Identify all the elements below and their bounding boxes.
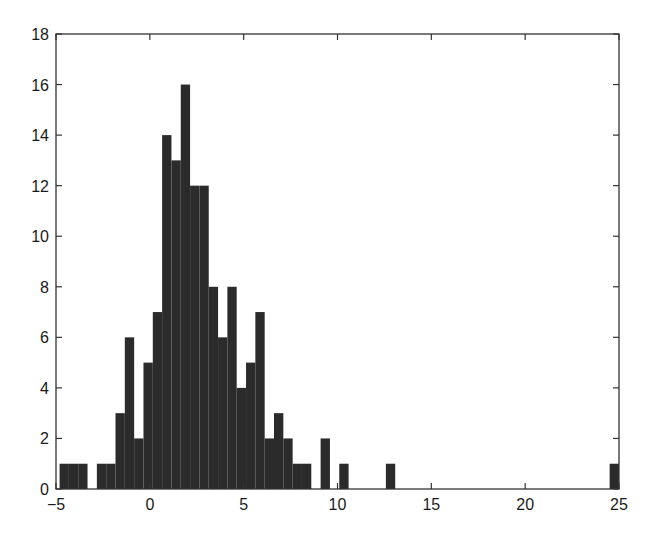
histogram-chart: −50510152025 024681012141618 [0, 0, 649, 539]
y-tick-label: 18 [31, 26, 49, 43]
histogram-bar [386, 464, 395, 489]
histogram-bar [162, 135, 171, 489]
histogram-bars [60, 85, 619, 489]
histogram-bar [321, 438, 330, 489]
histogram-bar [246, 363, 255, 489]
y-tick-label: 10 [31, 228, 49, 245]
histogram-bar [97, 464, 106, 489]
histogram-bar [218, 337, 227, 489]
histogram-bar [181, 85, 190, 489]
histogram-bar [610, 464, 619, 489]
histogram-bar [255, 312, 264, 489]
x-tick-label: 0 [145, 496, 154, 513]
histogram-bar [143, 363, 152, 489]
y-tick-label: 12 [31, 178, 49, 195]
x-tick-label: 25 [610, 496, 628, 513]
histogram-bar [339, 464, 348, 489]
y-tick-label: 0 [40, 481, 49, 498]
histogram-bar [116, 413, 125, 489]
histogram-bar [265, 438, 274, 489]
histogram-bar [171, 160, 180, 489]
histogram-bar [209, 287, 218, 489]
axes-frame [56, 34, 619, 489]
x-tick-label: 20 [516, 496, 534, 513]
histogram-bar [153, 312, 162, 489]
histogram-bar [190, 186, 199, 489]
y-tick-label: 6 [40, 329, 49, 346]
histogram-bar [125, 337, 134, 489]
x-tick-label: −5 [47, 496, 65, 513]
y-tick-label: 2 [40, 430, 49, 447]
histogram-bar [60, 464, 69, 489]
y-tick-label: 16 [31, 77, 49, 94]
histogram-bar [274, 413, 283, 489]
x-tick-label: 10 [329, 496, 347, 513]
histogram-bar [199, 186, 208, 489]
histogram-bar [283, 438, 292, 489]
y-tick-label: 8 [40, 279, 49, 296]
histogram-bar [302, 464, 311, 489]
y-tick-label: 4 [40, 380, 49, 397]
x-tick-label: 5 [239, 496, 248, 513]
histogram-bar [69, 464, 78, 489]
histogram-bar [134, 438, 143, 489]
x-tick-label: 15 [422, 496, 440, 513]
histogram-bar [293, 464, 302, 489]
histogram-bar [227, 287, 236, 489]
histogram-bar [78, 464, 87, 489]
y-tick-label: 14 [31, 127, 49, 144]
histogram-bar [106, 464, 115, 489]
histogram-bar [237, 388, 246, 489]
